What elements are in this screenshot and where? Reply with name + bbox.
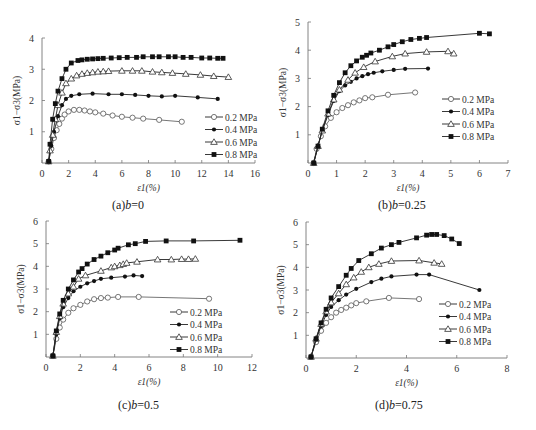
series-0-8-mpa xyxy=(309,232,462,359)
legend-marker-icon xyxy=(177,322,181,326)
legend: 0.2 MPa0.4 MPa0.6 MPa0.8 MPa xyxy=(442,95,495,143)
data-point xyxy=(143,239,148,244)
data-point xyxy=(477,31,482,36)
x-tick-label: 0 xyxy=(44,362,49,373)
data-point xyxy=(157,54,162,59)
data-point xyxy=(324,320,329,325)
legend-item: 0.4 MPa xyxy=(170,320,223,330)
data-point xyxy=(416,296,421,301)
data-point xyxy=(364,299,369,304)
data-point xyxy=(360,74,364,78)
y-tick-label: 5 xyxy=(295,17,300,28)
data-point xyxy=(354,301,359,306)
x-tick-label: 6 xyxy=(454,363,459,374)
data-point xyxy=(349,303,354,308)
y-tick-label: 2 xyxy=(293,307,298,318)
data-point xyxy=(109,276,113,280)
data-point xyxy=(119,114,124,119)
data-point xyxy=(77,107,82,112)
legend-label: 0.2 MPa xyxy=(459,300,492,310)
data-point xyxy=(215,56,220,61)
y-tick-label: 4 xyxy=(33,261,38,272)
data-point xyxy=(442,233,447,238)
data-point xyxy=(109,56,114,61)
data-point xyxy=(352,70,359,76)
data-point xyxy=(69,94,73,98)
y-tick-label: 6 xyxy=(33,216,38,227)
legend-item: 0.2 MPa xyxy=(439,300,492,310)
data-point xyxy=(131,273,135,277)
data-point xyxy=(75,276,82,282)
y-tick-label: 3 xyxy=(293,285,298,296)
legend-label: 0.6 MPa xyxy=(462,120,495,130)
x-tick-label: 3 xyxy=(391,168,396,179)
data-point xyxy=(85,299,90,304)
data-point xyxy=(120,92,124,96)
data-point xyxy=(92,257,97,262)
data-point xyxy=(179,119,184,124)
legend: 0.2 MPa0.4 MPa0.6 MPa0.8 MPa xyxy=(170,308,223,356)
data-point xyxy=(80,266,85,271)
data-point xyxy=(101,111,106,116)
data-point xyxy=(105,295,110,300)
data-point xyxy=(364,53,369,58)
legend-marker-icon xyxy=(212,127,216,131)
data-point xyxy=(61,298,66,303)
legend-marker-icon xyxy=(445,301,450,306)
data-point xyxy=(117,55,122,60)
data-point xyxy=(360,64,367,70)
x-axis-label: ε1(%) xyxy=(395,378,418,389)
data-point xyxy=(434,232,439,237)
data-point xyxy=(427,272,431,276)
legend-marker-icon xyxy=(177,347,182,352)
legend-item: 0.4 MPa xyxy=(205,125,258,135)
data-point xyxy=(336,284,341,289)
y-tick-label: 2 xyxy=(33,306,38,317)
data-point xyxy=(414,235,419,240)
y-tick-label: 6 xyxy=(293,217,298,228)
data-point xyxy=(324,307,329,312)
data-point xyxy=(389,242,394,247)
data-point xyxy=(414,272,418,276)
series-0-6-mpa xyxy=(310,48,457,165)
data-point xyxy=(136,294,141,299)
data-point xyxy=(385,92,390,97)
legend-item: 0.6 MPa xyxy=(439,325,492,335)
data-point xyxy=(125,55,130,60)
legend-item: 0.2 MPa xyxy=(170,308,223,318)
y-tick-label: 4 xyxy=(29,33,34,44)
data-point xyxy=(345,103,350,108)
data-point xyxy=(354,59,359,64)
x-tick-label: 6 xyxy=(147,362,152,373)
caption-c-value: =0.5 xyxy=(137,398,159,412)
data-point xyxy=(66,109,71,114)
data-point xyxy=(348,63,353,68)
data-point xyxy=(71,306,76,311)
data-point xyxy=(54,329,59,334)
data-point xyxy=(181,55,186,60)
x-tick-label: 6 xyxy=(477,168,482,179)
data-point xyxy=(357,98,362,103)
data-point xyxy=(50,353,55,358)
data-point xyxy=(337,298,341,302)
data-point xyxy=(391,42,396,47)
x-tick-label: 6 xyxy=(119,168,124,179)
data-point xyxy=(216,97,220,101)
legend-item: 0.8 MPa xyxy=(442,132,495,142)
series-0-4-mpa xyxy=(309,272,482,358)
y-tick-label: 2 xyxy=(295,101,300,112)
y-tick-label: 5 xyxy=(293,239,298,250)
legend-marker-icon xyxy=(212,152,217,157)
data-point xyxy=(116,294,121,299)
x-axis-label: ε1(%) xyxy=(138,377,161,388)
x-tick-label: 8 xyxy=(146,168,151,179)
legend-label: 0.8 MPa xyxy=(190,345,223,355)
x-axis-label: ε1(%) xyxy=(137,183,160,194)
data-point xyxy=(69,61,74,66)
data-point xyxy=(82,108,87,113)
data-point xyxy=(356,258,361,263)
data-point xyxy=(311,161,316,166)
legend-label: 0.4 MPa xyxy=(225,125,258,135)
legend-marker-icon xyxy=(446,339,451,344)
legend-marker-icon xyxy=(448,96,453,101)
